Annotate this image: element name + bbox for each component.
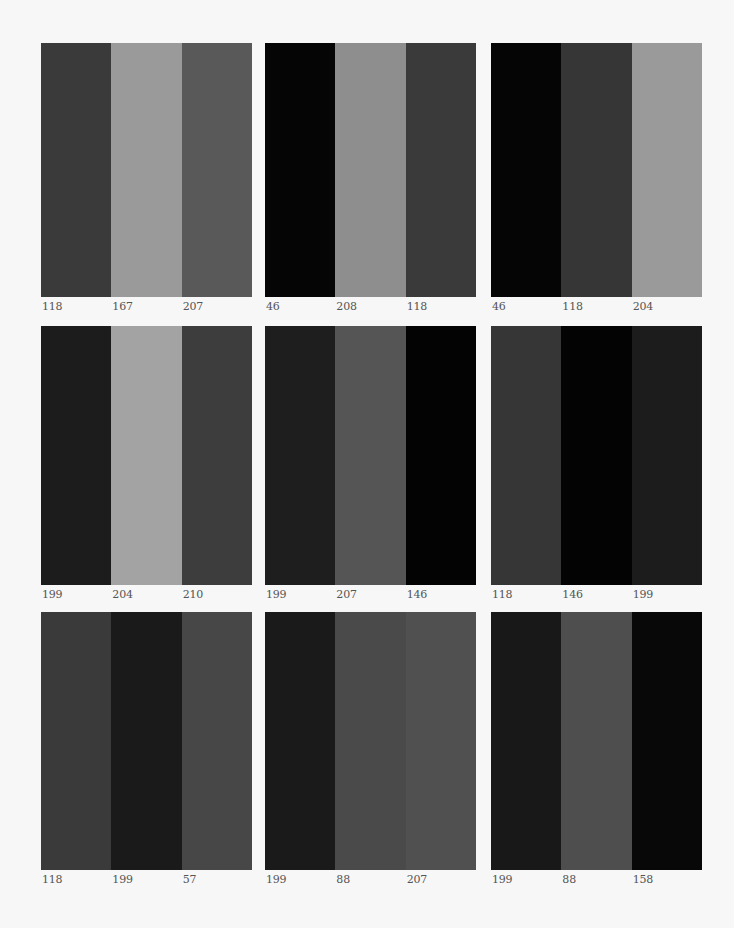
- stripe-label: 204: [632, 300, 702, 313]
- stripe-label: 118: [41, 300, 111, 313]
- stripe-label: 88: [335, 873, 405, 886]
- stripe: [111, 612, 181, 870]
- swatch-panel-6: 118 146 199: [491, 326, 702, 601]
- stripe: [41, 43, 111, 297]
- stripe: [335, 612, 405, 870]
- stripe-label: 46: [491, 300, 561, 313]
- stripe: [632, 326, 702, 585]
- stripe-label: 158: [632, 873, 702, 886]
- stripe-label: 199: [265, 588, 335, 601]
- stripe: [406, 326, 476, 585]
- stripe: [265, 612, 335, 870]
- swatch-panel-9: 199 88 158: [491, 612, 702, 886]
- stripe: [491, 612, 561, 870]
- swatch-stripes: [491, 326, 702, 585]
- swatch-stripes: [491, 43, 702, 297]
- swatch-stripes: [41, 326, 252, 585]
- stripe-label: 57: [182, 873, 252, 886]
- stripe-label: 167: [111, 300, 181, 313]
- stripe-label: 118: [561, 300, 631, 313]
- stripe: [41, 326, 111, 585]
- swatch-stripes: [265, 326, 476, 585]
- stripe: [632, 612, 702, 870]
- stripe-labels: 199 207 146: [265, 588, 476, 601]
- stripe: [111, 326, 181, 585]
- stripe-label: 118: [491, 588, 561, 601]
- stripe-labels: 46 118 204: [491, 300, 702, 313]
- stripe: [335, 43, 405, 297]
- swatch-stripes: [491, 612, 702, 870]
- stripe-label: 199: [265, 873, 335, 886]
- stripe-label: 199: [41, 588, 111, 601]
- swatch-stripes: [41, 612, 252, 870]
- swatch-panel-4: 199 204 210: [41, 326, 252, 601]
- stripe: [182, 326, 252, 585]
- stripe-label: 146: [561, 588, 631, 601]
- stripe-label: 208: [335, 300, 405, 313]
- stripe-labels: 118 167 207: [41, 300, 252, 313]
- stripe: [406, 612, 476, 870]
- stripe-label: 210: [182, 588, 252, 601]
- stripe-label: 88: [561, 873, 631, 886]
- stripe-labels: 118 199 57: [41, 873, 252, 886]
- stripe: [561, 612, 631, 870]
- stripe: [182, 612, 252, 870]
- swatch-panel-3: 46 118 204: [491, 43, 702, 313]
- stripe-labels: 46 208 118: [265, 300, 476, 313]
- stripe: [265, 43, 335, 297]
- swatch-panel-1: 118 167 207: [41, 43, 252, 313]
- stripe-label: 207: [406, 873, 476, 886]
- stripe-label: 199: [632, 588, 702, 601]
- swatch-stripes: [265, 43, 476, 297]
- stripe-labels: 199 204 210: [41, 588, 252, 601]
- stripe: [561, 43, 631, 297]
- stripe-label: 199: [491, 873, 561, 886]
- stripe: [111, 43, 181, 297]
- stripe-label: 146: [406, 588, 476, 601]
- stripe-label: 199: [111, 873, 181, 886]
- swatch-stripes: [265, 612, 476, 870]
- stripe-labels: 199 88 207: [265, 873, 476, 886]
- stripe-label: 204: [111, 588, 181, 601]
- stripe: [406, 43, 476, 297]
- stripe-label: 207: [182, 300, 252, 313]
- swatch-panel-7: 118 199 57: [41, 612, 252, 886]
- swatch-panel-8: 199 88 207: [265, 612, 476, 886]
- stripe: [41, 612, 111, 870]
- stripe-label: 46: [265, 300, 335, 313]
- stripe: [561, 326, 631, 585]
- stripe: [182, 43, 252, 297]
- stripe: [335, 326, 405, 585]
- stripe: [491, 43, 561, 297]
- swatch-panel-5: 199 207 146: [265, 326, 476, 601]
- stripe-labels: 118 146 199: [491, 588, 702, 601]
- stripe-labels: 199 88 158: [491, 873, 702, 886]
- stripe-label: 118: [406, 300, 476, 313]
- stripe-label: 207: [335, 588, 405, 601]
- stripe: [632, 43, 702, 297]
- swatch-panel-2: 46 208 118: [265, 43, 476, 313]
- swatch-stripes: [41, 43, 252, 297]
- stripe: [265, 326, 335, 585]
- stripe-label: 118: [41, 873, 111, 886]
- stripe: [491, 326, 561, 585]
